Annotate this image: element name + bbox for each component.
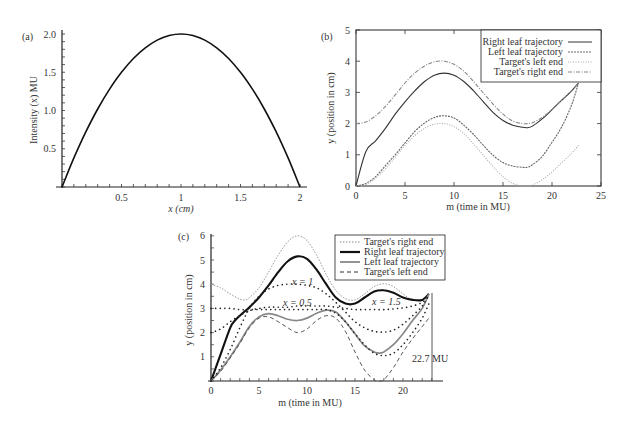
panel-b-xtick: 0 <box>354 190 359 201</box>
panel-b-xtick: 25 <box>596 190 606 201</box>
panel-c-label: (c) <box>178 231 189 243</box>
panel-c-xtick: 15 <box>350 385 360 396</box>
panel-c-ytick: 1 <box>200 351 205 362</box>
panel-c-series-line <box>211 316 429 382</box>
annotation-x05: x = 0.5 <box>282 297 312 308</box>
panel-c-xlabel: m (time in MU) <box>278 397 342 409</box>
panel-b: (b) 0510152025012345 y (position in cm) … <box>321 25 606 214</box>
panel-a-ytick: 2.0 <box>44 29 57 40</box>
panel-b-xtick: 10 <box>449 190 459 201</box>
panel-b-ytick: 3 <box>345 87 350 98</box>
panel-a-ytick: 1.0 <box>44 105 57 116</box>
panel-c-legend: Target's right end Right leaf trajectory… <box>335 235 445 280</box>
panel-a-xlabel: x (cm) <box>167 203 194 215</box>
panel-c-xtick: 0 <box>209 385 214 396</box>
panel-b-series-line <box>356 73 579 186</box>
panel-c-xtick: 10 <box>302 385 312 396</box>
panel-a-ytick: 1.5 <box>44 67 57 78</box>
panel-c-ytick: 3 <box>200 303 205 314</box>
panel-b-ytick: 5 <box>345 25 350 36</box>
panel-a: (a) 0.511.520.51.01.52.0 Intensity (x) M… <box>22 29 307 216</box>
panel-a-ticks: 0.511.520.51.01.52.0 <box>44 29 303 204</box>
annotation-end-time: 22.7 MU <box>412 353 449 364</box>
annotation-x1: x = 1 <box>291 276 313 287</box>
legend-b-target-right: Target's right end <box>494 66 563 77</box>
panel-c-xtick: 20 <box>398 385 408 396</box>
panel-b-ytick: 1 <box>345 149 350 160</box>
panel-a-label: (a) <box>22 31 33 43</box>
panel-a-xtick: 0.5 <box>115 192 128 203</box>
annotation-x15: x = 1.5 <box>371 296 401 307</box>
panel-c-ytick: 6 <box>200 230 205 241</box>
panel-b-xtick: 5 <box>403 190 408 201</box>
panel-c-xtick: 5 <box>257 385 262 396</box>
panel-a-xtick: 2 <box>298 192 303 203</box>
panel-b-ytick: 4 <box>345 56 350 67</box>
legend-c-target-left: Target's left end <box>364 266 428 277</box>
panel-b-series-line <box>356 83 579 186</box>
panel-b-xlabel: m (time in MU) <box>446 201 510 213</box>
panel-a-xtick: 1.5 <box>234 192 247 203</box>
panel-a-ylabel: Intensity (x) MU <box>28 75 40 144</box>
panel-b-ytick: 2 <box>345 118 350 129</box>
panel-b-xtick: 15 <box>498 190 508 201</box>
panel-a-ytick: 0.5 <box>44 143 57 154</box>
figure: (a) 0.511.520.51.01.52.0 Intensity (x) M… <box>0 0 622 425</box>
panel-b-series-line <box>356 123 579 186</box>
panel-c: (c) 05101520123456 y (position in cm) m … <box>178 230 449 409</box>
panel-a-xtick: 1 <box>179 192 184 203</box>
panel-b-ytick: 0 <box>345 181 350 192</box>
panel-c-ylabel: y (position in cm) <box>183 274 195 345</box>
panel-b-label: (b) <box>321 31 333 43</box>
panel-c-ytick: 4 <box>200 279 205 290</box>
panel-b-ylabel: y (position in cm) <box>325 72 337 143</box>
panel-b-xtick: 20 <box>547 190 557 201</box>
panel-c-ytick: 2 <box>200 327 205 338</box>
panel-b-legend: Right leaf trajectory Left leaf trajecto… <box>481 30 601 82</box>
panel-c-ytick: 5 <box>200 255 205 266</box>
panel-a-intensity-curve <box>62 34 300 187</box>
